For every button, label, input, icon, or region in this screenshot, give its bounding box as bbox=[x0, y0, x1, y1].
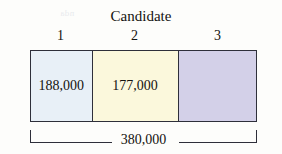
category-label-3: 3 bbox=[178, 28, 257, 44]
bar-segment-2: 177,000 bbox=[92, 51, 178, 121]
total-bracket: 380,000 bbox=[30, 130, 257, 148]
category-label-1: 1 bbox=[30, 28, 91, 44]
total-label: 380,000 bbox=[30, 132, 257, 148]
segment-value-2: 177,000 bbox=[112, 78, 158, 94]
segment-value-1: 188,000 bbox=[39, 78, 85, 94]
bar-segment-1: 188,000 bbox=[31, 51, 92, 121]
category-label-row: 1 2 3 bbox=[30, 28, 257, 48]
bar-segment-3 bbox=[178, 51, 256, 121]
stacked-bar: 188,000 177,000 bbox=[30, 50, 257, 122]
category-label-2: 2 bbox=[91, 28, 178, 44]
chart-title: Candidate bbox=[0, 8, 282, 25]
stacked-bar-figure: the mean we a the data 3011 17171 ano (8… bbox=[0, 0, 282, 154]
